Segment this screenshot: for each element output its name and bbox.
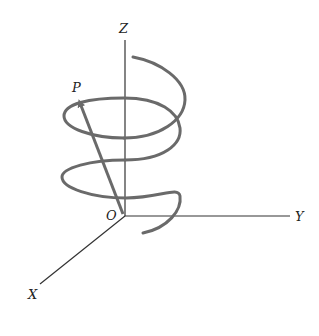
point-label: P — [71, 80, 81, 95]
x-axis — [40, 216, 125, 284]
x-axis-label: X — [27, 287, 38, 302]
y-axis-label: Y — [295, 209, 305, 224]
helix-lower-loop — [62, 160, 180, 233]
origin-label: O — [106, 208, 117, 223]
helix-diagram: Z Y X O P — [0, 0, 319, 336]
z-axis-label: Z — [118, 21, 129, 36]
